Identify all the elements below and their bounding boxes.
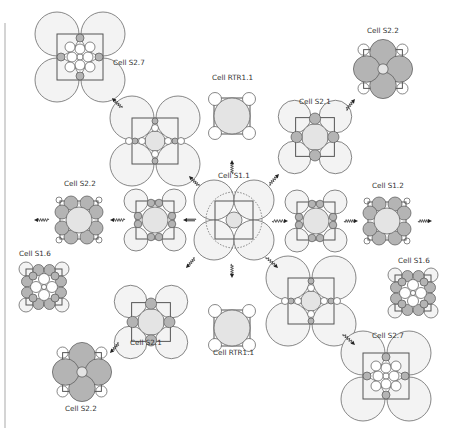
small-atom: [139, 138, 146, 145]
small-atom: [165, 138, 172, 145]
bond-atom: [328, 131, 339, 142]
arrow-s11-to-rtr-bot: [231, 264, 234, 275]
ring-atom: [391, 361, 401, 371]
cell-label-rtr-bot: Cell RTR1.1: [213, 348, 254, 357]
cell-rtr-top: [209, 93, 256, 140]
small-atom: [126, 138, 133, 145]
inner-atom: [408, 296, 419, 307]
ring-atom: [381, 363, 391, 373]
arrow-s11-to-inter-r: [272, 220, 285, 223]
large-atom: [194, 220, 234, 260]
large-dark-atom: [52, 359, 79, 386]
mid-atom: [420, 278, 428, 286]
core-atom: [302, 124, 329, 151]
arrow-s11-to-inter-l: [186, 219, 196, 222]
corner-atom: [56, 237, 62, 243]
cell-label-rtr-top: Cell RTR1.1: [212, 73, 253, 82]
bond-atom: [172, 138, 178, 144]
bond-atom: [155, 233, 163, 241]
small-atom: [308, 285, 315, 292]
bond-atom: [155, 199, 163, 207]
ring-atom: [83, 52, 93, 62]
bond-atom: [291, 131, 302, 142]
ring-atom: [75, 60, 85, 70]
cell-label-s16-l: Cell S1.6: [19, 249, 51, 258]
ring-atom: [67, 52, 77, 62]
corner-atom: [96, 197, 102, 203]
core-atom: [214, 98, 250, 134]
bond-atom: [316, 200, 324, 208]
corner-atom: [404, 198, 410, 204]
inner-atom: [400, 288, 411, 299]
cell-s22-ll: [52, 342, 111, 401]
ring-atom: [85, 42, 95, 52]
cell-label-s27-lr: Cell S2.7: [372, 331, 404, 340]
ring-atom: [391, 381, 401, 391]
core-atom: [142, 207, 168, 233]
arrow-s11-to-rtr-bot-head: [230, 274, 234, 278]
core-atom: [374, 208, 400, 234]
bond-atom: [308, 200, 316, 208]
small-atom: [295, 298, 302, 305]
arrow-s12-r-off: [418, 220, 429, 223]
corner-atom: [96, 237, 102, 243]
ring-atom: [65, 62, 75, 72]
bond-atom: [316, 234, 324, 242]
corner-atom: [404, 238, 410, 244]
ring-atom: [371, 381, 381, 391]
core-atom: [138, 309, 165, 336]
corner-atom: [364, 198, 370, 204]
bond-atom: [132, 138, 138, 144]
bond-atom: [145, 298, 156, 309]
cell-s22-l: [55, 196, 103, 244]
bond-atom: [95, 53, 103, 61]
core-atom: [226, 212, 242, 228]
arrow-s11-to-inter-l-head: [183, 218, 187, 222]
core-atom: [66, 207, 92, 233]
ring-atom: [85, 62, 95, 72]
core-atom: [303, 208, 329, 234]
small-atom: [152, 125, 159, 132]
arrow-s12-r-off-head: [428, 219, 432, 223]
ring-atom: [373, 371, 383, 381]
center-atom: [411, 291, 416, 296]
small-atom: [334, 298, 341, 305]
arrow-s22-l-off: [37, 219, 49, 222]
inner-atom: [47, 282, 58, 293]
bond-atom: [295, 213, 303, 221]
mid-atom: [29, 272, 37, 280]
inner-atom: [416, 288, 427, 299]
cell-s27-ul: [35, 12, 125, 102]
cell-s12-r: [363, 197, 411, 245]
core-atom: [214, 310, 250, 346]
cell-label-s12-r: Cell S1.2: [372, 181, 404, 190]
arrow-inter-l-to-s22-l-head: [110, 218, 114, 222]
bond-atom: [382, 391, 390, 399]
cell-s16-l: [19, 262, 69, 312]
large-dark-atom: [353, 56, 380, 83]
cell-inter-lr: [266, 256, 356, 346]
bond-atom: [168, 220, 176, 228]
mid-atom: [51, 294, 59, 302]
core-atom: [378, 64, 388, 74]
cell-s11: [194, 180, 274, 260]
cell-label-s11: Cell S1.1: [218, 171, 250, 180]
bond-atom: [152, 118, 158, 124]
arrow-inter-r-to-s12-r-head: [354, 219, 358, 223]
small-atom: [178, 138, 185, 145]
bond-atom: [309, 113, 320, 124]
cell-label-s22-ur: Cell S2.2: [367, 26, 399, 35]
bond-atom: [147, 233, 155, 241]
bond-atom: [288, 298, 294, 304]
center-atom: [77, 54, 83, 60]
ring-atom: [381, 379, 391, 389]
bond-atom: [295, 221, 303, 229]
bond-atom: [57, 53, 65, 61]
bond-atom: [329, 213, 337, 221]
bond-atom: [168, 212, 176, 220]
cell-label-s21-ll: Cell S2.1: [130, 338, 162, 347]
mid-atom: [398, 300, 406, 308]
small-atom: [321, 298, 328, 305]
ring-atom: [371, 361, 381, 371]
cell-label-s16-r: Cell S1.6: [398, 256, 430, 265]
